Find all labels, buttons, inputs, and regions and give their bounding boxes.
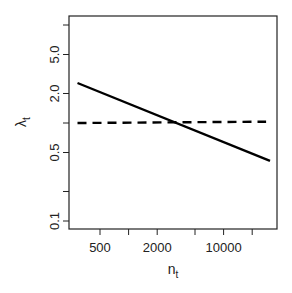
y-tick-label: 0.5 bbox=[47, 143, 62, 161]
y-tick-label: 5.0 bbox=[47, 45, 62, 63]
line-chart: 500200010000 0.10.52.05.0 nt λt bbox=[0, 0, 292, 293]
x-tick-label: 2000 bbox=[143, 240, 172, 255]
y-tick-label: 2.0 bbox=[47, 84, 62, 102]
series-line-dashed bbox=[78, 122, 267, 123]
x-axis: 500200010000 bbox=[89, 229, 252, 255]
y-axis-title: λt bbox=[13, 117, 32, 127]
y-tick-label: 0.1 bbox=[47, 212, 62, 230]
series-group bbox=[78, 83, 271, 161]
x-tick-label: 10000 bbox=[206, 240, 242, 255]
y-axis: 0.10.52.05.0 bbox=[47, 25, 69, 230]
x-axis-title: nt bbox=[168, 261, 179, 280]
x-tick-label: 500 bbox=[89, 240, 111, 255]
